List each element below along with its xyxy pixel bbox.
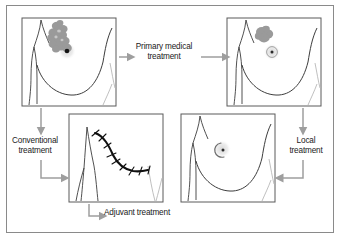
breast-conservation-panel (181, 114, 275, 202)
label-adjuvant-treatment: Adjuvant treatment (104, 208, 214, 218)
initial-tumour-panel (22, 18, 116, 106)
arrow-conventional-to-mastectomy (41, 160, 62, 178)
treatment-pathway-diagram (0, 0, 341, 240)
nipple-dark-dot (65, 49, 70, 54)
label-local-treatment: Local treatment (276, 136, 336, 155)
nipple-dot (222, 149, 225, 152)
arrow-local-to-conservation (282, 160, 303, 178)
label-conventional-treatment: Conventional treatment (3, 136, 67, 155)
label-primary-medical-treatment: Primary medical treatment (128, 42, 200, 61)
nipple-dot (271, 51, 274, 54)
arrow-mastectomy-to-adjuvant (89, 204, 100, 216)
post-primary-treatment-panel (227, 18, 321, 106)
mastectomy-scar-panel (69, 114, 163, 202)
